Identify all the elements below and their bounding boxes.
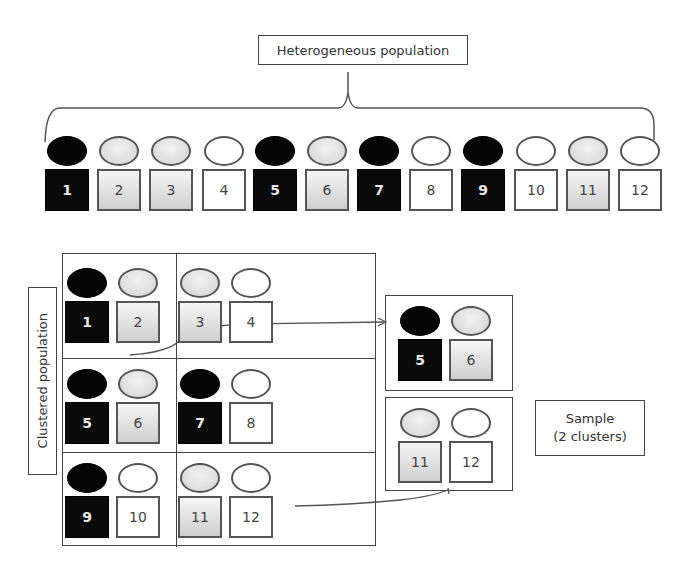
population-item-square: 5 xyxy=(253,169,297,211)
cluster-item-square: 10 xyxy=(116,496,160,538)
population-item-circle-white xyxy=(516,136,556,166)
cluster-item-circle-gray xyxy=(180,268,220,298)
cluster-item-square: 3 xyxy=(178,301,222,343)
clustered-population-text: Clustered population xyxy=(35,313,50,448)
population-item-square: 2 xyxy=(97,169,141,211)
sample-item-circle-black xyxy=(400,306,440,336)
sample-label: Sample (2 clusters) xyxy=(535,400,645,456)
population-item-circle-gray xyxy=(151,136,191,166)
population-item-square: 12 xyxy=(618,169,662,211)
sample-cluster: 1112 xyxy=(385,397,513,491)
cluster-item-circle-gray xyxy=(180,463,220,493)
cluster-item-circle-gray xyxy=(118,268,158,298)
cluster-item-circle-black xyxy=(67,268,107,298)
cluster-item-circle-black xyxy=(67,463,107,493)
cluster-item-circle-white xyxy=(231,463,271,493)
cluster-item-square: 2 xyxy=(116,301,160,343)
population-item-square: 3 xyxy=(149,169,193,211)
sample-item-square: 6 xyxy=(449,339,493,381)
population-item-circle-white xyxy=(411,136,451,166)
cluster-item-square: 11 xyxy=(178,496,222,538)
population-item-circle-black xyxy=(255,136,295,166)
population-item-circle-black xyxy=(463,136,503,166)
population-item-square: 4 xyxy=(202,169,246,211)
sample-cluster: 56 xyxy=(385,295,513,391)
population-item-circle-gray xyxy=(307,136,347,166)
population-item-square: 7 xyxy=(357,169,401,211)
cluster-item-square: 5 xyxy=(65,402,109,444)
population-item-square: 11 xyxy=(566,169,610,211)
cluster-item-circle-white xyxy=(118,463,158,493)
sample-item-circle-white xyxy=(451,408,491,438)
population-item-circle-black xyxy=(47,136,87,166)
population-item-square: 8 xyxy=(409,169,453,211)
sample-item-circle-gray xyxy=(400,408,440,438)
cluster-item-square: 8 xyxy=(229,402,273,444)
cluster-item-circle-gray xyxy=(118,369,158,399)
cluster-item-square: 12 xyxy=(229,496,273,538)
population-item-circle-gray xyxy=(99,136,139,166)
population-item-square: 9 xyxy=(461,169,505,211)
population-item-circle-black xyxy=(359,136,399,166)
sample-item-square: 12 xyxy=(449,441,493,483)
sample-label-line2: (2 clusters) xyxy=(553,428,627,446)
clustered-population-label: Clustered population xyxy=(28,287,57,475)
sample-item-square: 11 xyxy=(398,441,442,483)
cluster-item-circle-black xyxy=(180,369,220,399)
cluster-item-circle-white xyxy=(231,369,271,399)
population-item-square: 10 xyxy=(514,169,558,211)
population-item-square: 1 xyxy=(45,169,89,211)
brace xyxy=(45,72,654,142)
sample-item-square: 5 xyxy=(398,339,442,381)
cluster-grid: 123456789101112 xyxy=(62,253,376,546)
cluster-item-circle-white xyxy=(231,268,271,298)
population-item-circle-white xyxy=(204,136,244,166)
population-item-circle-white xyxy=(620,136,660,166)
sample-label-line1: Sample xyxy=(566,410,615,428)
cluster-item-square: 4 xyxy=(229,301,273,343)
sample-item-circle-gray xyxy=(451,306,491,336)
cluster-item-square: 1 xyxy=(65,301,109,343)
cluster-item-circle-black xyxy=(67,369,107,399)
cluster-item-square: 7 xyxy=(178,402,222,444)
cluster-item-square: 9 xyxy=(65,496,109,538)
population-item-square: 6 xyxy=(305,169,349,211)
cluster-item-square: 6 xyxy=(116,402,160,444)
population-item-circle-gray xyxy=(568,136,608,166)
